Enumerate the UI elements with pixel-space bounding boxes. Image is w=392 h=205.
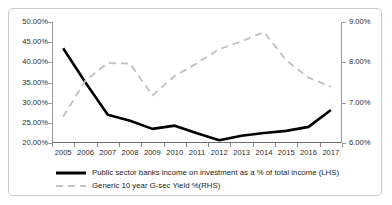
y-axis-left-tick-label: 50.00% <box>4 18 48 26</box>
x-axis-tick <box>230 143 231 147</box>
x-axis-tick <box>74 143 75 147</box>
series-line-2 <box>63 32 331 117</box>
x-axis-tick <box>253 143 254 147</box>
series-line-1 <box>63 48 331 140</box>
legend-label: Generic 10 year G-sec Yield %(RHS) <box>92 182 220 190</box>
x-axis-tick-label: 2017 <box>318 149 344 157</box>
y-axis-right-tick-label: 8.00% <box>349 58 391 66</box>
chart-legend: Public sector banks income on investment… <box>56 166 376 192</box>
x-axis-tick <box>164 143 165 147</box>
x-axis-tick <box>52 143 53 147</box>
y-axis-left-tick-label: 40.00% <box>4 58 48 66</box>
x-axis-tick <box>119 143 120 147</box>
y-axis-left-tick <box>48 83 52 84</box>
x-axis-tick <box>275 143 276 147</box>
plot-area <box>52 22 342 143</box>
legend-label: Public sector banks income on investment… <box>92 169 339 177</box>
y-axis-left-tick-label: 25.00% <box>4 119 48 127</box>
y-axis-right-tick-label: 6.00% <box>349 139 391 147</box>
legend-item[interactable]: Public sector banks income on investment… <box>56 166 376 179</box>
y-axis-right-tick-label: 7.00% <box>349 99 391 107</box>
x-axis-tick <box>97 143 98 147</box>
y-axis-right-tick <box>342 22 346 23</box>
y-axis-left-tick <box>48 62 52 63</box>
y-axis-left-tick <box>48 42 52 43</box>
legend-item[interactable]: Generic 10 year G-sec Yield %(RHS) <box>56 179 376 192</box>
x-axis-tick <box>297 143 298 147</box>
y-axis-left-tick <box>48 123 52 124</box>
x-axis-tick <box>320 143 321 147</box>
x-axis-tick <box>342 143 343 147</box>
y-axis-left-tick-label: 45.00% <box>4 38 48 46</box>
series-lines <box>52 22 342 143</box>
x-axis-tick <box>141 143 142 147</box>
y-axis-right-tick <box>342 103 346 104</box>
x-axis-tick <box>208 143 209 147</box>
y-axis-left-tick-label: 30.00% <box>4 99 48 107</box>
y-axis-left-tick <box>48 103 52 104</box>
y-axis-left-tick-label: 35.00% <box>4 79 48 87</box>
y-axis-left-tick <box>48 22 52 23</box>
y-axis-right-tick-label: 9.00% <box>349 18 391 26</box>
x-axis-tick <box>186 143 187 147</box>
solid-line-swatch <box>56 168 86 178</box>
chart-figure: Public sector banks income on investment… <box>0 0 392 205</box>
dashed-line-swatch <box>56 181 86 191</box>
y-axis-right-tick <box>342 62 346 63</box>
y-axis-left-tick-label: 20.00% <box>4 139 48 147</box>
